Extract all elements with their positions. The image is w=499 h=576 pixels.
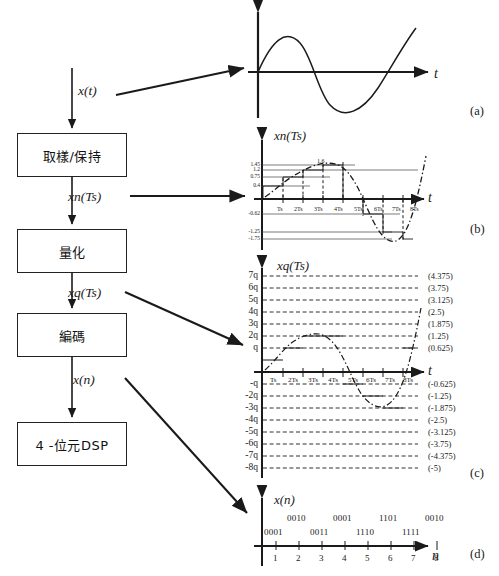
panel-c-x-tick-3: 3Ts [308,376,318,384]
panel-d-n-label-2: 2 [296,553,301,563]
panel-c-q-label-15: -8q [232,462,258,472]
panel-a-waveform [258,28,416,113]
panel-c-v-label-9: (-1.25) [428,391,451,401]
panel-c-v-label-10: (-1.875) [428,403,456,413]
panel-c-v-label-2: (3.75) [428,283,449,293]
panel-b-peak-annotation: 1.6 [317,158,325,164]
panel-c-q-label-11: -4q [232,414,258,424]
panel-d-code-1: 0001 [264,527,283,537]
panel-c-x-tick-6: 6Ts [366,376,376,384]
signal-label-xn-ts: xn(Ts) [68,189,101,205]
panel-c-v-label-15: (-5) [428,463,441,473]
panel-d-n-label-4: 4 [342,553,347,563]
panel-d-n-label-8: 8 [434,553,439,563]
panel-b-staircase [263,165,413,239]
panel-tag-b: (b) [470,222,485,237]
panel-d-code-6: 1101 [379,513,397,523]
panel-d-code-4: 0001 [333,513,352,523]
diagram-canvas: 取樣/保持 量化 編碼 4 -位元DSP x(t) xn(Ts) xq(Ts) … [0,0,499,576]
panel-c-q-label-5: 3q [232,318,258,328]
panel-b-y-tick-4: 0.4 [238,182,260,188]
panel-c-q-label-9: -2q [232,390,258,400]
panel-d-code-3: 0011 [310,527,328,537]
panel-d-n-ticks [276,541,437,550]
panel-c-q-label-14: -7q [232,450,258,460]
panel-b-title: xn(Ts) [274,128,306,144]
flow-block-quantize-label: 量化 [59,242,86,261]
panel-c-q-label-4: 4q [232,306,258,316]
panel-c-x-tick-1: Ts [270,376,277,384]
flow-block-dsp-label: 4 -位元DSP [35,435,108,454]
panel-b-x-tick-6: 6Ts [374,206,383,212]
panel-c-analog-trace [265,308,421,407]
panel-b-x-tick-3: 3Ts [314,206,323,212]
panel-d-code-5: 1110 [356,527,374,537]
panel-c-quantized-steps [263,336,415,408]
panel-b-x-tick-1: Ts [277,206,283,212]
tap-arrow-a [116,68,244,95]
panel-d-n-label-3: 3 [319,553,324,563]
panel-tag-c: (c) [470,466,484,481]
panel-c-v-label-3: (3.125) [428,295,453,305]
flow-block-encode-label: 編碼 [59,326,86,345]
tap-arrow-c [125,292,243,345]
panel-b-x-ticks [283,195,403,203]
panel-b-y-tick-6: -1.25 [238,228,260,234]
signal-label-xq-ts: xq(Ts) [68,285,101,301]
panel-c-x-tick-4: 4Ts [328,376,338,384]
panel-c-v-label-11: (-2.5) [428,415,447,425]
panel-b-x-axis-label: t [428,190,432,206]
panel-c-q-label-2: 6q [232,282,258,292]
panel-c-v-label-13: (-3.75) [428,439,451,449]
panel-d-n-label-6: 6 [388,553,393,563]
panel-b-x-tick-4: 4Ts [334,206,343,212]
flow-block-encode: 編碼 [17,313,127,357]
panel-b-plot [254,140,426,250]
panel-b-x-tick-7: 7Ts [392,206,401,212]
panel-d-code-2: 0010 [287,513,306,523]
panel-c-x-tick-8: 8Ts [403,376,413,384]
panel-d-code-7: 1111 [402,527,420,537]
panel-tag-d: (d) [470,547,485,562]
panel-d-n-label-5: 5 [365,553,370,563]
panel-c-q-label-1: 7q [232,270,258,280]
panel-c-v-label-14: (-4.375) [428,451,456,461]
panel-c-v-label-1: (4.375) [428,271,453,281]
panel-b-x-tick-2: 2Ts [294,206,303,212]
panel-b-level-guides [262,165,418,239]
panel-b-y-tick-3: 0.75 [238,173,260,179]
flow-block-sample-hold-label: 取樣/保持 [43,146,102,165]
panel-d-n-label-7: 7 [411,553,416,563]
panel-b-x-tick-8: 8Ts [410,206,419,212]
panel-c-gridlines [263,276,418,468]
panel-a-x-axis-label: t [434,66,438,82]
panel-c-v-label-5: (1.875) [428,319,453,329]
panel-b-x-tick-5: 5Ts [354,206,363,212]
signal-label-xn: x(n) [73,372,95,388]
panel-c-q-label-12: -5q [232,426,258,436]
panel-d-code-8: 0010 [425,513,444,523]
panel-c-q-label-10: -3q [232,402,258,412]
panel-d-title: x(n) [274,492,295,508]
flow-block-quantize: 量化 [17,229,127,273]
panel-c-x-tick-5: 5Ts [348,376,358,384]
panel-c-q-label-3: 5q [232,294,258,304]
panel-b-analog-input [265,156,426,241]
panel-c-v-label-7: (0.625) [428,343,453,353]
tap-arrow-d [125,378,247,513]
panel-c-title: xq(Ts) [277,258,309,274]
panel-c-v-label-4: (2.5) [428,307,444,317]
panel-c-q-label-13: -6q [232,438,258,448]
panel-c-v-label-8: (-0.625) [428,379,456,389]
panel-c-x-tick-7: 7Ts [385,376,395,384]
panel-c-x-tick-2: 2Ts [288,376,298,384]
panel-a-plot [248,12,428,118]
panel-c-q-label-7: q [232,342,258,352]
panel-tag-a: (a) [470,104,484,119]
panel-c-plot [254,268,424,478]
panel-c-q-label-8: -q [232,378,258,388]
panel-c-q-label-6: 2q [232,330,258,340]
panel-b-y-tick-2: 1.2 [238,166,260,172]
panel-b-sample-strobes [283,162,403,241]
signal-label-xt: x(t) [78,83,97,99]
